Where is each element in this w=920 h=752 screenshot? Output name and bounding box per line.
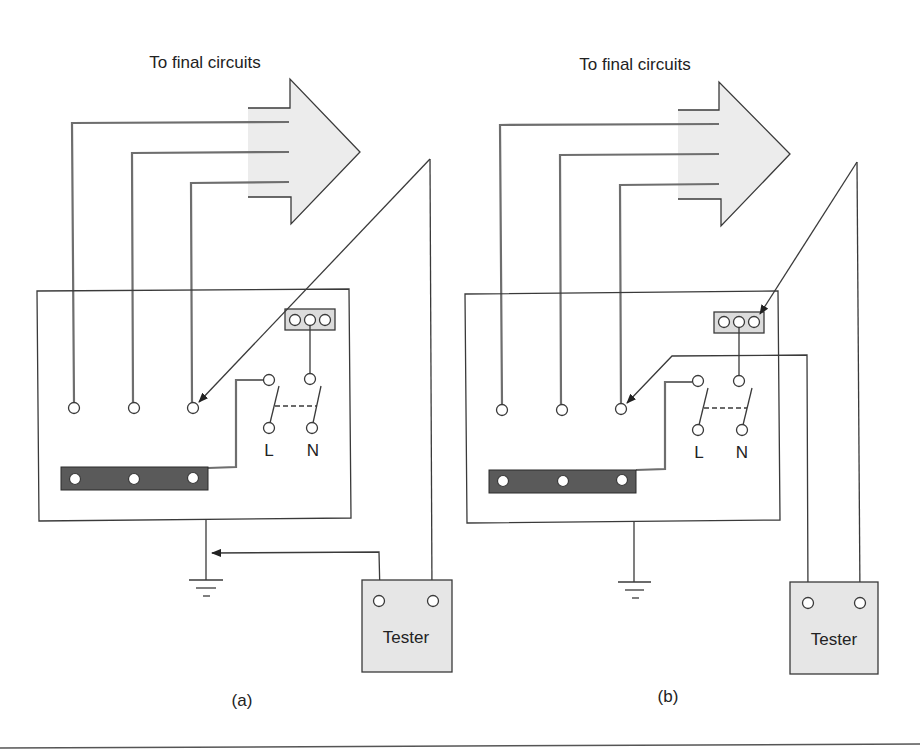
- neutral-label: N: [307, 441, 319, 460]
- live-label: L: [694, 443, 703, 462]
- panel-a-caption: (a): [232, 691, 253, 710]
- tester-label: Tester: [383, 628, 430, 647]
- neutral-link-wire: [208, 380, 263, 468]
- live-label: L: [264, 441, 273, 460]
- final-circuits-title: To final circuits: [149, 53, 260, 72]
- final-circuits-title: To final circuits: [579, 55, 690, 74]
- panel-b-caption: (b): [658, 687, 679, 706]
- tester-earth-lead: [212, 552, 380, 595]
- main-switch: [264, 326, 322, 434]
- bottom-rule: [0, 744, 920, 748]
- tester-b: [790, 582, 878, 674]
- circuit-terminals: [69, 403, 199, 414]
- tester-a: [362, 580, 452, 672]
- panel-b: To final circuits: [465, 55, 878, 706]
- neutral-bar: [489, 470, 636, 493]
- neutral-bar: [61, 467, 208, 490]
- neutral-link-wire: [636, 382, 692, 470]
- neutral-label: N: [736, 443, 748, 462]
- tester-label: Tester: [811, 630, 858, 649]
- panel-a: To final circuits: [37, 53, 452, 710]
- main-switch: [693, 328, 753, 436]
- wiring-diagram: To final circuits: [0, 0, 920, 752]
- earth-ground-icon: [189, 519, 223, 596]
- circuit-terminals: [497, 404, 627, 416]
- earth-ground-icon: [618, 522, 651, 598]
